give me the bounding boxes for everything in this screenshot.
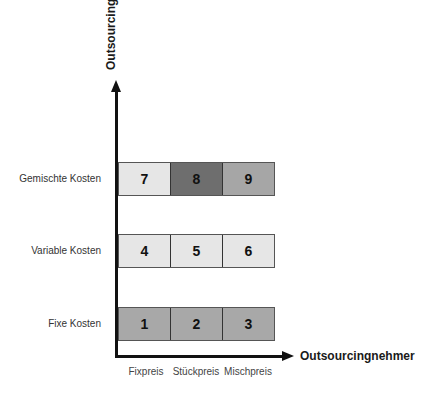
matrix-row-fixe-kosten: 1 2 3 xyxy=(118,307,275,341)
matrix-cell-5: 5 xyxy=(171,235,223,267)
x-axis-title: Outsourcingnehmer xyxy=(300,349,415,363)
matrix-cell-7: 7 xyxy=(119,163,171,195)
y-axis-title: Outsourcinggeber xyxy=(104,0,118,70)
vertical-axis-arrowhead-icon xyxy=(111,80,121,92)
column-label-mischpreis: Mischpreis xyxy=(222,366,274,377)
column-label-stueckpreis: Stückpreis xyxy=(170,366,222,377)
row-label-gemischte-kosten: Gemischte Kosten xyxy=(19,173,101,184)
matrix-cell-3: 3 xyxy=(223,308,274,340)
matrix-row-variable-kosten: 4 5 6 xyxy=(118,234,275,268)
matrix-cell-2: 2 xyxy=(171,308,223,340)
matrix-cell-6: 6 xyxy=(223,235,274,267)
row-label-fixe-kosten: Fixe Kosten xyxy=(48,318,101,329)
matrix-cell-9: 9 xyxy=(223,163,274,195)
matrix-cell-8: 8 xyxy=(171,163,223,195)
matrix-cell-1: 1 xyxy=(119,308,171,340)
horizontal-axis xyxy=(115,355,285,358)
row-label-variable-kosten: Variable Kosten xyxy=(31,245,101,256)
column-label-fixpreis: Fixpreis xyxy=(120,366,172,377)
matrix-row-gemischte-kosten: 7 8 9 xyxy=(118,162,275,196)
matrix-cell-4: 4 xyxy=(119,235,171,267)
horizontal-axis-arrowhead-icon xyxy=(282,351,294,361)
